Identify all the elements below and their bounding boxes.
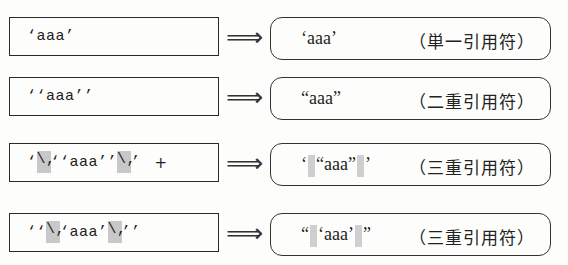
source-text-inner: ‘‘aaa’’ bbox=[51, 154, 118, 171]
thin-space-command: \, bbox=[37, 151, 51, 173]
rendered-output-box: “aaa” （二重引用符） bbox=[270, 77, 551, 120]
source-text: ‘‘aaa’’ bbox=[27, 88, 94, 105]
implies-arrow-icon: ⟹ bbox=[226, 24, 266, 50]
rendered-close-quote: ” bbox=[363, 224, 371, 244]
rendered-text: ‘​“aaa”​’ bbox=[301, 154, 371, 177]
rendered-output-box: ‘​“aaa”​’ （三重引用符） bbox=[270, 143, 551, 186]
rendered-output-box: “​‘aaa’​” （三重引用符） bbox=[270, 213, 551, 256]
example-row-triple-quote-b: ‘‘\,‘aaa’\,’’ ⟹ “​‘aaa’​” （三重引用符） bbox=[0, 213, 568, 255]
implies-arrow-icon: ⟹ bbox=[226, 220, 266, 246]
rendered-close-quote: ’ bbox=[365, 154, 371, 174]
thin-space-command: \, bbox=[117, 151, 131, 173]
quote-type-label: （三重引用符） bbox=[409, 154, 535, 179]
thin-space-marker: ​ bbox=[355, 225, 362, 247]
implies-arrow-icon: ⟹ bbox=[226, 150, 266, 176]
example-row-double-quote: ‘‘aaa’’ ⟹ “aaa” （二重引用符） bbox=[0, 77, 568, 119]
rendered-output-box: ‘aaa’ （単一引用符） bbox=[270, 17, 551, 60]
source-text-inner: ‘aaa’ bbox=[60, 224, 108, 241]
thin-space-command: \, bbox=[46, 221, 60, 243]
rendered-open-quote: ‘ bbox=[301, 154, 307, 174]
implies-arrow-icon: ⟹ bbox=[226, 84, 266, 110]
source-text-open: ‘‘ bbox=[27, 224, 46, 241]
example-row-triple-quote-a: ‘\,‘‘aaa’’\,’+ ⟹ ‘​“aaa”​’ （三重引用符） bbox=[0, 143, 568, 185]
thin-space-marker: ​ bbox=[308, 155, 315, 177]
rendered-inner: ‘aaa’ bbox=[318, 224, 354, 244]
example-row-single-quote: ‘aaa’ ⟹ ‘aaa’ （単一引用符） bbox=[0, 17, 568, 59]
source-text-close: ’’ bbox=[122, 224, 141, 241]
source-text-open: ‘ bbox=[27, 154, 37, 171]
source-code-box: ‘\,‘‘aaa’’\,’+ bbox=[9, 143, 219, 182]
rendered-text: ‘aaa’ bbox=[301, 28, 337, 49]
thin-space-marker: ​ bbox=[357, 155, 364, 177]
thin-space-command: \, bbox=[108, 221, 122, 243]
source-text: ‘aaa’ bbox=[27, 28, 75, 45]
quote-type-label: （単一引用符） bbox=[409, 28, 535, 53]
quote-type-label: （二重引用符） bbox=[409, 88, 535, 113]
rendered-text: “​‘aaa’​” bbox=[301, 224, 371, 247]
quote-type-label: （三重引用符） bbox=[409, 224, 535, 249]
rendered-inner: “aaa” bbox=[316, 154, 356, 174]
source-code-box: ‘‘\,‘aaa’\,’’ bbox=[9, 213, 219, 252]
thin-space-marker: ​ bbox=[310, 225, 317, 247]
source-text-close: ’ bbox=[131, 154, 141, 171]
source-code-box: ‘aaa’ bbox=[9, 17, 219, 56]
source-code-box: ‘‘aaa’’ bbox=[9, 77, 219, 116]
rendered-text: “aaa” bbox=[301, 88, 341, 109]
plus-sign: + bbox=[155, 154, 168, 172]
rendered-open-quote: “ bbox=[301, 224, 309, 244]
